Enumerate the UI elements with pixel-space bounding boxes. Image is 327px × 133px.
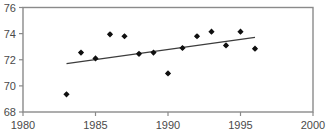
data-point-core [94,57,97,60]
chart-canvas: 6870727476 19801985199019952000 [0,0,327,133]
data-point-core [196,35,199,38]
data-point-core [138,52,141,55]
data-point-core [65,93,68,96]
y-tick-label: 72 [4,54,16,66]
x-tick-label: 1985 [83,119,107,131]
x-tick-label: 1995 [228,119,252,131]
data-point-core [225,44,228,47]
x-tick-label: 1990 [156,119,180,131]
y-tick-label: 74 [4,28,16,40]
x-tick-label: 1980 [11,119,35,131]
x-axis-tick-labels: 19801985199019952000 [11,119,325,131]
scatter-chart: 6870727476 19801985199019952000 [0,0,327,133]
data-point-core [109,33,112,36]
data-point-core [152,51,155,54]
x-tick-label: 2000 [301,119,325,131]
y-tick-label: 76 [4,2,16,14]
y-tick-label: 68 [4,106,16,118]
data-point-group [63,29,258,98]
data-point-core [210,30,213,33]
data-point-core [181,46,184,49]
data-point-core [239,30,242,33]
y-tick-label: 70 [4,80,16,92]
y-axis-tick-labels: 6870727476 [4,2,16,119]
data-point-core [167,72,170,75]
data-point-core [123,35,126,38]
data-point-core [254,47,257,50]
data-point-core [80,51,83,54]
